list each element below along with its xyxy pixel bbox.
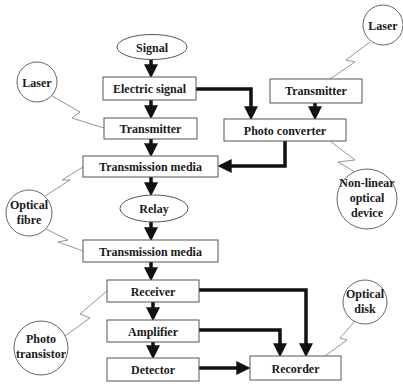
nonlinear-label-line3: device bbox=[351, 206, 384, 220]
node-signal: Signal bbox=[117, 35, 187, 60]
optical-fibre-label-line1: Optical bbox=[10, 198, 49, 212]
laser-right-label: Laser bbox=[368, 19, 398, 33]
transmission-media-1-label: Transmission media bbox=[99, 160, 202, 174]
connector-optical-disk bbox=[325, 321, 355, 356]
receiver-label: Receiver bbox=[131, 285, 176, 299]
node-recorder: Recorder bbox=[250, 356, 341, 380]
node-receiver: Receiver bbox=[107, 280, 199, 302]
transmission-media-2-label: Transmission media bbox=[99, 245, 202, 259]
amplifier-label: Amplifier bbox=[128, 325, 179, 339]
node-electric-signal: Electric signal bbox=[103, 77, 196, 100]
arrow-receiver-recorder bbox=[199, 290, 306, 351]
fiber-optic-flow-diagram: Signal Electric signal Transmitter Trans… bbox=[0, 0, 403, 389]
node-transmission-media-2: Transmission media bbox=[83, 240, 218, 262]
callout-photo-transistor: Photo transistor bbox=[14, 321, 68, 375]
nonlinear-label-line2: optical bbox=[350, 191, 385, 205]
node-photo-converter: Photo converter bbox=[224, 119, 346, 141]
callout-nonlinear-optical-device: Non-linear optical device bbox=[337, 169, 397, 229]
callout-laser-right: Laser bbox=[363, 5, 403, 45]
node-transmission-media-1: Transmission media bbox=[83, 156, 218, 177]
nonlinear-label-line1: Non-linear bbox=[339, 176, 395, 190]
optical-disk-label-line2: disk bbox=[354, 302, 376, 316]
photo-transistor-label-line1: Photo bbox=[26, 332, 56, 346]
connector-laser-left bbox=[52, 96, 104, 128]
photo-transistor-label-line2: transistor bbox=[16, 347, 67, 361]
transmitter-right-label: Transmitter bbox=[285, 84, 347, 98]
connector-laser-right bbox=[330, 42, 370, 79]
callout-laser-left: Laser bbox=[17, 62, 57, 102]
node-amplifier: Amplifier bbox=[107, 320, 199, 342]
arrow-amplifier-recorder bbox=[199, 330, 280, 351]
optical-disk-label-line1: Optical bbox=[346, 287, 385, 301]
optical-fibre-label-line2: fibre bbox=[17, 213, 42, 227]
connector-fibre-2 bbox=[46, 229, 83, 251]
transmitter-label: Transmitter bbox=[120, 122, 182, 136]
node-transmitter-right: Transmitter bbox=[270, 79, 362, 103]
connector-photo-transistor bbox=[65, 291, 107, 336]
node-detector: Detector bbox=[107, 358, 199, 381]
node-transmitter: Transmitter bbox=[104, 118, 197, 139]
relay-label: Relay bbox=[139, 202, 168, 216]
callout-optical-fibre: Optical fibre bbox=[6, 190, 52, 236]
arrow-electric-photoconverter bbox=[196, 89, 251, 114]
arrow-photoconverter-media bbox=[224, 141, 285, 166]
detector-label: Detector bbox=[131, 363, 176, 377]
signal-label: Signal bbox=[136, 41, 169, 55]
callout-optical-disk: Optical disk bbox=[343, 280, 387, 324]
photo-converter-label: Photo converter bbox=[244, 124, 327, 138]
laser-left-label: Laser bbox=[22, 76, 52, 90]
connector-fibre-1 bbox=[45, 167, 83, 196]
electric-signal-label: Electric signal bbox=[113, 82, 187, 96]
connector-nonlinear bbox=[330, 141, 355, 172]
recorder-label: Recorder bbox=[272, 362, 321, 376]
node-relay: Relay bbox=[120, 195, 188, 222]
